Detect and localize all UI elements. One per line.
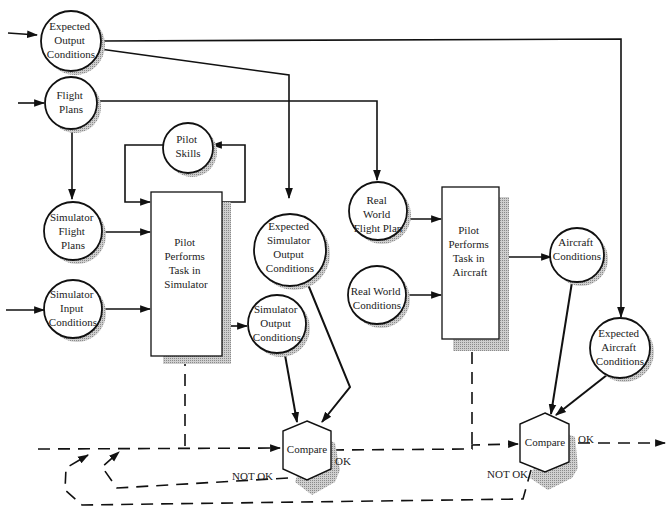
- compare-label: Compare: [287, 443, 327, 455]
- ok-label: OK: [578, 433, 594, 445]
- node-label-line: Flight Plan: [354, 222, 403, 234]
- arrow-aircraft-conditions-to-compare: [551, 282, 572, 414]
- node-compare-aircraft: Compare OK NOT OK: [487, 413, 594, 490]
- node-label-line: Conditions: [253, 331, 301, 343]
- node-label-line: Conditions: [266, 262, 314, 274]
- arrow-sim-output-to-compare: [285, 355, 297, 422]
- node-label-line: Conditions: [553, 250, 601, 262]
- node-label-line: Task in: [453, 252, 485, 264]
- node-label-line: Input: [60, 302, 83, 314]
- node-pilot-skills: Pilot Skills: [163, 123, 217, 177]
- node-label-line: Real World: [351, 285, 401, 297]
- svg-text:Expected Aircraft: Expected Aircraft Conditions: [596, 327, 644, 367]
- node-pilot-performs-task-in-aircraft: Pilot Performs Task in Aircraft: [442, 187, 509, 351]
- node-label-line: Simulator: [50, 211, 94, 223]
- node-label-line: Expected: [268, 220, 309, 232]
- node-simulator-flight-plans: Simulator Flight Plans: [44, 202, 106, 264]
- node-real-world-flight-plan: Real World Flight Plan: [349, 182, 411, 244]
- node-label-line: Output: [260, 317, 291, 329]
- node-aircraft-conditions: Aircraft Conditions: [550, 228, 608, 286]
- node-label-line: Output: [273, 248, 304, 260]
- node-label-line: Simulator: [164, 278, 208, 290]
- arrow-flight-plans-to-real-world-plan: [98, 101, 377, 180]
- node-label-line: Conditions: [47, 48, 95, 60]
- arrow-in-expected-output: [8, 33, 37, 35]
- not-ok-label: NOT OK: [232, 470, 273, 482]
- node-simulator-input-conditions: Simulator Input Conditions: [44, 280, 106, 342]
- node-label-line: Flight: [56, 89, 82, 101]
- node-label-line: Expected: [49, 20, 90, 32]
- not-ok-label: NOT OK: [487, 468, 528, 480]
- node-label-line: Performs: [164, 250, 204, 262]
- node-label-line: Aircraft: [601, 341, 636, 353]
- node-label-line: Skills: [175, 147, 200, 159]
- node-compare-simulator: Compare OK NOT OK: [232, 421, 351, 495]
- node-label-line: Performs: [448, 238, 488, 250]
- node-label-line: Pilot: [174, 236, 195, 248]
- node-pilot-performs-task-in-simulator: Pilot Performs Task in Simulator: [151, 192, 231, 364]
- arrow-expected-sim-to-compare: [307, 282, 350, 422]
- arrow-expected-aircraft-to-compare: [556, 371, 612, 415]
- node-label-line: Simulator: [267, 234, 311, 246]
- dashed-flows: [38, 331, 665, 505]
- dashed-into-sim-compare: [38, 448, 280, 449]
- node-label-line: Expected: [598, 327, 639, 339]
- node-label-line: Flight: [58, 225, 84, 237]
- node-expected-aircraft-conditions: Expected Aircraft Conditions: [590, 318, 654, 382]
- node-label-line: Simulator: [254, 303, 298, 315]
- dashed-sim-ok-to-air-compare: [332, 444, 518, 450]
- node-label-line: Plans: [61, 239, 85, 251]
- node-label-line: Conditions: [49, 316, 97, 328]
- node-label-line: Pilot: [458, 224, 479, 236]
- node-label-line: Pilot: [176, 133, 197, 145]
- diagram-canvas: Expected Output Conditions Flight Plans …: [0, 0, 667, 508]
- node-expected-simulator-output-conditions: Expected Simulator Output Conditions: [254, 214, 330, 290]
- node-label-line: Simulator: [50, 288, 94, 300]
- compare-label: Compare: [525, 436, 565, 448]
- node-label-line: Output: [54, 34, 85, 46]
- node-label-line: Aircraft: [558, 236, 593, 248]
- node-label-line: Plans: [59, 103, 83, 115]
- ok-label: OK: [335, 455, 351, 467]
- node-simulator-output-conditions: Simulator Output Conditions: [248, 295, 310, 357]
- node-label-line: Task in: [169, 264, 201, 276]
- node-label-line: World: [363, 208, 391, 220]
- node-expected-output-conditions: Expected Output Conditions: [41, 11, 105, 75]
- node-label-line: Conditions: [596, 355, 644, 367]
- node-flight-plans: Flight Plans: [45, 77, 101, 133]
- node-label-line: Aircraft: [453, 266, 488, 278]
- node-real-world-conditions: Real World Conditions: [348, 266, 410, 328]
- node-label-line: Real: [367, 194, 387, 206]
- node-label-line: Conditions: [353, 299, 401, 311]
